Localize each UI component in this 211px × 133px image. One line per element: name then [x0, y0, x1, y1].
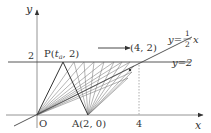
x-tick-4-label: 4: [136, 118, 142, 129]
x-axis-label: x: [195, 119, 202, 132]
point-dot: [129, 69, 131, 71]
point-p-label: P(ta, 2): [44, 48, 79, 61]
origin-label: O: [39, 118, 47, 129]
svg-text:2: 2: [185, 40, 190, 49]
diagram-canvas: y x O 2 4 P(ta, 2) A(2, 0) (4, 2) y= 1 2…: [0, 0, 211, 133]
axes: [6, 10, 203, 128]
svg-text:x: x: [193, 34, 199, 45]
svg-text:1: 1: [185, 29, 190, 38]
label-y-equals-2: y=2: [171, 57, 192, 68]
point-4-2-label: (4, 2): [130, 42, 157, 53]
svg-text:y=: y=: [167, 34, 182, 45]
triangle-opa: [37, 62, 88, 115]
y-tick-2-label: 2: [28, 50, 34, 61]
label-y-half-x: y= 1 2 x: [167, 29, 199, 49]
y-axis-label: y: [25, 3, 33, 16]
line-y-equals-half-x: [14, 37, 192, 126]
point-a-label: A(2, 0): [71, 118, 106, 129]
